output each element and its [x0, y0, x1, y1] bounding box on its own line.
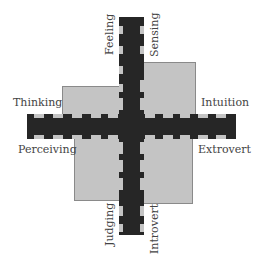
- quadrant-lower-right: [140, 137, 193, 204]
- label-introvert: Introvert: [149, 204, 160, 254]
- quadrant-upper-left: [62, 86, 124, 116]
- label-perceiving: Perceiving: [18, 144, 77, 155]
- label-intuition: Intuition: [201, 97, 249, 108]
- label-sensing: Sensing: [149, 13, 160, 57]
- label-thinking: Thinking: [13, 97, 62, 108]
- label-judging: Judging: [104, 203, 115, 246]
- personality-axes-diagram: Feeling Sensing Thinking Intuition Perce…: [0, 0, 256, 268]
- quadrant-upper-right: [140, 62, 196, 116]
- quadrant-lower-left: [74, 137, 124, 201]
- label-extrovert: Extrovert: [198, 144, 251, 155]
- label-feeling: Feeling: [104, 14, 115, 55]
